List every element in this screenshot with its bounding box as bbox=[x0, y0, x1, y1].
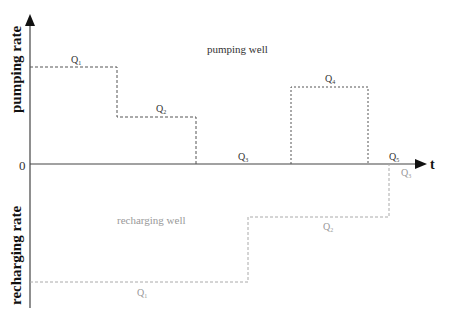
y-axis-arrow-icon bbox=[25, 14, 35, 26]
recharging-q2-label: Q2 bbox=[323, 221, 333, 233]
recharging-q3-label: Q3 bbox=[401, 167, 411, 179]
pumping-recharging-diagram: pumping rate recharging rate 0 t pumping… bbox=[0, 0, 450, 322]
recharging-schedule-line bbox=[30, 164, 389, 282]
pumping-schedule-line bbox=[30, 67, 196, 164]
pumping-q1-label: Q1 bbox=[71, 54, 81, 66]
recharging-q1-label: Q1 bbox=[137, 287, 147, 299]
x-axis-label: t bbox=[430, 157, 435, 172]
pumping-q5-label: Q5 bbox=[389, 151, 399, 163]
pumping-q3-label: Q3 bbox=[238, 151, 248, 163]
y-axis-top-label: pumping rate bbox=[8, 26, 24, 113]
x-axis-arrow-icon bbox=[415, 159, 427, 169]
pumping-well-label: pumping well bbox=[207, 43, 268, 55]
pumping-q4-box bbox=[291, 87, 368, 164]
origin-label: 0 bbox=[19, 158, 26, 173]
y-axis-bottom-label: recharging rate bbox=[8, 205, 24, 305]
pumping-q4-label: Q4 bbox=[325, 73, 335, 85]
recharging-well-label: recharging well bbox=[117, 214, 186, 226]
pumping-q2-label: Q2 bbox=[156, 103, 166, 115]
